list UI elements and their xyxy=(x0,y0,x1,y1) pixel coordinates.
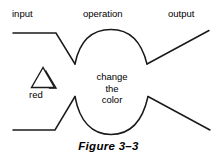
triangle-outline-icon xyxy=(32,68,55,88)
label-operation: operation xyxy=(83,9,123,19)
label-red: red xyxy=(29,90,43,100)
lower-left-input-line xyxy=(13,97,75,131)
figure-container: input operation output red change the co… xyxy=(0,0,217,161)
triangle-icon xyxy=(32,68,57,89)
label-output: output xyxy=(168,9,194,19)
lower-right-output-line xyxy=(148,97,210,131)
operation-description-line-2: the xyxy=(83,83,141,95)
label-input: input xyxy=(12,9,33,19)
upper-left-input-line xyxy=(13,33,75,64)
operation-description-line-3: color xyxy=(83,94,141,106)
operation-description-line-1: change xyxy=(83,71,141,83)
operation-description: change the color xyxy=(83,71,141,106)
upper-right-output-line xyxy=(147,31,209,65)
figure-caption: Figure 3–3 xyxy=(0,140,217,152)
upper-operation-bulge-curve xyxy=(75,30,147,65)
